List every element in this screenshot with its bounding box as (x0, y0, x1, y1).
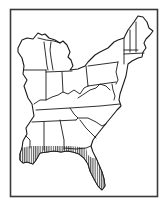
eastern-us-map (0, 0, 165, 205)
map-figure: Eastern United States range map (0, 0, 165, 205)
